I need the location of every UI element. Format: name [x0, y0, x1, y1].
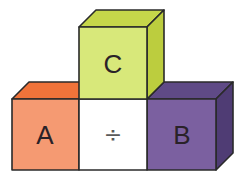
block-c-side-face: [147, 10, 164, 99]
division-operator: ÷: [104, 122, 122, 147]
block-c-label: C: [104, 49, 123, 79]
cube-division-diagram: A C B ÷: [0, 0, 248, 194]
block-a-label: A: [36, 120, 54, 150]
block-b-label: B: [173, 120, 190, 150]
